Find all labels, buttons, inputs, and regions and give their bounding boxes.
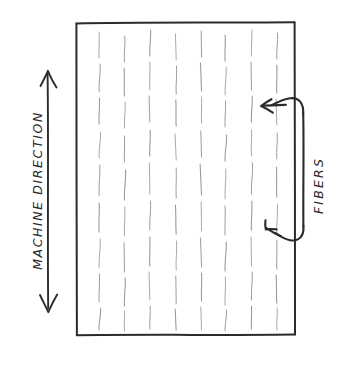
fiber-dash xyxy=(251,30,252,56)
fiber-dash xyxy=(225,310,227,331)
fiber-dash xyxy=(99,132,101,158)
fiber-dash xyxy=(99,239,100,268)
sheet-edge-bottom xyxy=(77,334,295,335)
machine-direction-label: MACHINE DIRECTION xyxy=(30,91,45,291)
fiber-dash xyxy=(225,242,226,271)
fiber-dash xyxy=(175,134,176,160)
fiber-dash xyxy=(201,131,202,157)
fiber-dash xyxy=(251,201,252,230)
fiber-dash xyxy=(225,135,227,161)
fiber-dash xyxy=(99,308,101,330)
fiber-dash xyxy=(225,67,226,95)
sheet-edge-top xyxy=(77,22,295,23)
fiber-dash xyxy=(149,272,150,300)
fiber-dash xyxy=(99,64,100,92)
fiber-dash xyxy=(99,98,100,124)
fiber-dash xyxy=(99,274,100,302)
fiber-dash xyxy=(149,96,150,122)
fiber-dash xyxy=(176,241,177,270)
fibers-label: FIBERS xyxy=(311,141,326,231)
fiber-dash xyxy=(277,133,278,159)
fiber-dash xyxy=(225,169,226,199)
fiber-dash xyxy=(175,34,176,60)
fiber-dash xyxy=(124,170,125,200)
fibers-bracket xyxy=(261,98,304,240)
fibers-bracket-curve-bottom xyxy=(276,226,304,240)
fiber-dash xyxy=(150,130,151,156)
fiber-dash xyxy=(225,277,226,305)
fiber-dash xyxy=(277,33,278,59)
fiber-dash xyxy=(251,272,252,300)
fiber-dash xyxy=(175,205,176,234)
sheet-edge-left xyxy=(76,24,77,335)
fiber-dash xyxy=(150,201,151,230)
fiber-dash xyxy=(150,30,151,56)
fiber-dash xyxy=(124,278,125,306)
fiber-dash xyxy=(200,164,201,195)
fibers-arrow-top-shaft xyxy=(264,105,287,106)
fiber-dash xyxy=(176,66,177,94)
fiber-dash xyxy=(276,275,277,303)
fiber-dash xyxy=(99,165,100,196)
material-sheet xyxy=(76,22,295,335)
fiber-dash xyxy=(124,36,125,62)
fiber-dash xyxy=(201,307,202,330)
fiber-field xyxy=(99,30,278,331)
fiber-dash xyxy=(251,163,252,194)
fiber-dash xyxy=(200,63,201,91)
diagram-canvas: MACHINE DIRECTION FIBERS xyxy=(0,0,345,365)
fiber-dash xyxy=(277,308,278,330)
fiber-dash xyxy=(124,207,125,236)
fiber-dash xyxy=(175,309,176,330)
fiber-dash xyxy=(150,306,151,329)
fiber-dash xyxy=(124,102,125,128)
fiber-dash xyxy=(251,96,252,122)
fiber-dash xyxy=(200,238,201,267)
machine-direction-arrow-shaft xyxy=(48,74,49,308)
sketch-surface xyxy=(0,0,345,365)
fiber-dash xyxy=(225,101,226,127)
